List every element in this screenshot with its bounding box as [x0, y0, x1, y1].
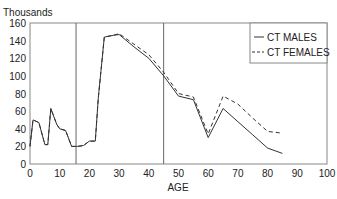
x-tick-label: 80 [262, 168, 274, 179]
y-tick-label: 80 [15, 89, 27, 100]
y-tick-label: 0 [20, 159, 26, 170]
x-tick-label: 90 [292, 168, 304, 179]
y-tick-label: 40 [15, 124, 27, 135]
legend-item-females: CT FEMALES [267, 47, 330, 58]
series-lines [30, 34, 282, 154]
y-tick-label: 140 [9, 36, 26, 47]
x-tick-label: 10 [54, 168, 66, 179]
x-tick-label: 60 [203, 168, 215, 179]
x-tick-label: 30 [114, 168, 126, 179]
legend-item-males: CT MALES [267, 32, 317, 43]
x-tick-label: 100 [319, 168, 336, 179]
x-axis-ticks: 0102030405060708090100 [27, 168, 336, 179]
x-tick-label: 50 [173, 168, 185, 179]
y-axis-label: Thousands [3, 7, 52, 18]
series-line-females [30, 34, 282, 147]
y-tick-label: 120 [9, 53, 26, 64]
x-tick-label: 0 [27, 168, 33, 179]
y-tick-label: 160 [9, 18, 26, 29]
x-tick-label: 70 [232, 168, 244, 179]
y-tick-label: 60 [15, 106, 27, 117]
reference-lines [76, 23, 164, 164]
legend: CT MALES CT FEMALES [250, 23, 330, 63]
x-axis-label: AGE [167, 182, 188, 193]
line-chart: Thousands 020406080100120140160 01020304… [0, 0, 337, 199]
x-tick-label: 40 [143, 168, 155, 179]
y-axis-ticks: 020406080100120140160 [9, 18, 26, 170]
x-tick-label: 20 [84, 168, 96, 179]
y-tick-label: 20 [15, 141, 27, 152]
y-tick-label: 100 [9, 71, 26, 82]
